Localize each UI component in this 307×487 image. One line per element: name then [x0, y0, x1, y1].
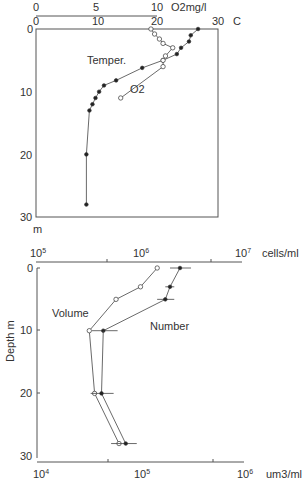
temp-unit-label: C	[233, 15, 241, 27]
open-point-marker	[152, 32, 156, 36]
bottom-depth-tick-20-label: 20	[20, 387, 32, 399]
vol-tick-1e6: 106	[237, 468, 253, 480]
open-point-marker	[157, 37, 161, 41]
open-point-marker	[114, 297, 118, 301]
vol-tick-1e5: 105	[134, 468, 150, 480]
top-depth-tick-10: 10	[20, 86, 32, 98]
open-point-marker	[161, 64, 165, 68]
temp-tick-20: 20	[151, 15, 163, 27]
vol-tick-1e4: 104	[33, 468, 49, 480]
depth-axis-title: Depth m	[4, 320, 16, 362]
o2-tick-10: 10	[151, 1, 163, 13]
bottom-depth-tick-10-label: 10	[20, 324, 32, 336]
temper-series-label: Temper.	[87, 54, 126, 66]
filled-point-marker	[168, 285, 172, 289]
filled-point-marker	[94, 96, 98, 100]
volume-series-label: Volume	[52, 307, 89, 319]
open-point-marker	[149, 27, 153, 31]
top-depth-tick-0: 0	[27, 23, 33, 35]
cells-tick-1e6: 106	[133, 247, 149, 259]
filled-point-marker	[196, 27, 200, 31]
filled-point-marker	[114, 79, 118, 83]
cells-tick-1e5: 105	[30, 247, 46, 259]
open-point-marker	[119, 96, 123, 100]
cells-tick-1e7: 107	[235, 247, 251, 259]
open-point-marker	[161, 58, 165, 62]
top-depth-tick-20: 20	[20, 149, 32, 161]
cells-unit-label: cells/ml	[262, 247, 299, 259]
o2-unit-label: O2mg/l	[171, 1, 206, 13]
filled-point-marker	[102, 84, 106, 88]
filled-point-marker	[178, 266, 182, 270]
filled-point-marker	[97, 90, 101, 94]
top-chart: 0 5 10 O2mg/l 0 10 20 30 C 0 10 20 30 m …	[20, 1, 241, 235]
open-point-marker	[171, 46, 175, 50]
top-plot-frame	[36, 29, 218, 217]
series-line	[121, 29, 173, 98]
top-depth-unit: m	[33, 223, 42, 235]
open-point-marker	[138, 285, 142, 289]
temp-tick-10: 10	[92, 15, 104, 27]
number-series-label: Number	[150, 320, 189, 332]
vol-unit-label: um3/ml	[266, 468, 302, 480]
series-line	[102, 331, 104, 394]
depth-profile-figure: 0 5 10 O2mg/l 0 10 20 30 C 0 10 20 30 m …	[0, 0, 307, 487]
filled-point-marker	[85, 153, 89, 157]
series-line	[102, 393, 126, 443]
filled-point-marker	[140, 66, 144, 70]
filled-point-marker	[189, 33, 193, 37]
o2-tick-5: 5	[93, 1, 99, 13]
filled-point-marker	[124, 442, 128, 446]
filled-point-marker	[187, 40, 191, 44]
open-point-marker	[155, 266, 159, 270]
bottom-chart: 105 106 107 cells/ml 0 10 20 30 Depth m …	[4, 247, 302, 480]
filled-point-marker	[175, 52, 179, 56]
o2-tick-0: 0	[33, 1, 39, 13]
filled-point-marker	[91, 102, 95, 106]
bottom-depth-tick-30-label: 30	[20, 450, 32, 462]
bottom-depth-tick-0-label: 0	[27, 262, 33, 274]
temp-tick-30: 30	[212, 15, 224, 27]
bottom-series-layer	[87, 266, 191, 446]
filled-point-marker	[179, 46, 183, 50]
filled-point-marker	[100, 392, 104, 396]
filled-point-marker	[88, 109, 92, 113]
open-point-marker	[161, 41, 165, 45]
open-point-marker	[163, 54, 167, 58]
temp-tick-0: 0	[33, 15, 39, 27]
filled-point-marker	[163, 298, 167, 302]
filled-point-marker	[85, 203, 89, 207]
series-line	[89, 268, 157, 444]
open-point-marker	[87, 329, 91, 333]
top-depth-tick-30: 30	[20, 211, 32, 223]
